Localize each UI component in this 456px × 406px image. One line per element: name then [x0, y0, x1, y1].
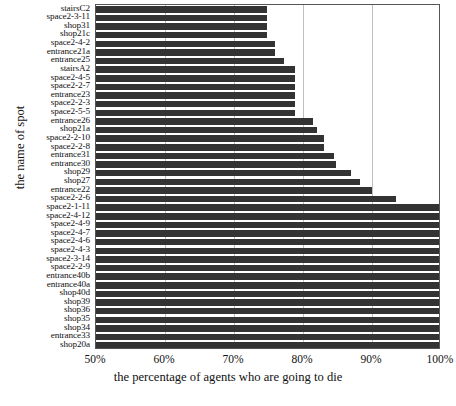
- bar: [96, 204, 440, 211]
- x-tick-label: 70%: [222, 352, 243, 366]
- bar: [96, 222, 440, 229]
- bar: [96, 273, 440, 280]
- bar-row: [96, 48, 440, 57]
- bar: [96, 213, 440, 220]
- bar-row: [96, 186, 440, 195]
- bar-row: [96, 14, 440, 23]
- bar-row: [96, 152, 440, 161]
- x-tick-label: 80%: [291, 352, 312, 366]
- bar: [96, 23, 267, 30]
- bar: [96, 161, 336, 168]
- bar-row: [96, 109, 440, 118]
- y-tick-label: shop20a: [60, 340, 90, 349]
- bar: [96, 6, 267, 13]
- x-axis-tick-labels: 50%60%70%80%90%100%: [0, 352, 456, 370]
- bar: [96, 32, 267, 39]
- bar-row: [96, 238, 440, 247]
- bar-row: [96, 74, 440, 83]
- bar: [96, 110, 295, 117]
- bar: [96, 84, 295, 91]
- bar-row: [96, 255, 440, 264]
- x-tick-label: 50%: [84, 352, 105, 366]
- bar: [96, 58, 284, 65]
- plot-area: [95, 4, 440, 349]
- bar-row: [96, 83, 440, 92]
- bar-row: [96, 316, 440, 325]
- bar: [96, 239, 440, 246]
- bar-row: [96, 298, 440, 307]
- bar-row: [96, 5, 440, 14]
- bar: [96, 101, 295, 108]
- bar: [96, 282, 440, 289]
- bar: [96, 75, 295, 82]
- bar: [96, 256, 440, 263]
- bar-row: [96, 195, 440, 204]
- bar: [96, 308, 440, 315]
- bar-row: [96, 333, 440, 342]
- bar: [96, 118, 313, 125]
- bar-row: [96, 178, 440, 187]
- bar: [96, 187, 372, 194]
- bar: [96, 49, 275, 56]
- bar-row: [96, 307, 440, 316]
- bar: [96, 248, 440, 255]
- bar-row: [96, 31, 440, 40]
- bar: [96, 41, 275, 48]
- bar-row: [96, 91, 440, 100]
- bar-row: [96, 324, 440, 333]
- bar-row: [96, 143, 440, 152]
- bar: [96, 317, 440, 324]
- bar: [96, 265, 440, 272]
- bar-row: [96, 100, 440, 109]
- bar: [96, 299, 440, 306]
- bar: [96, 325, 440, 332]
- bar-row: [96, 134, 440, 143]
- bar-row: [96, 203, 440, 212]
- bar-row: [96, 65, 440, 74]
- x-tick-label: 90%: [360, 352, 381, 366]
- bar: [96, 196, 396, 203]
- y-axis-title: the name of spot: [13, 68, 28, 228]
- bar-row: [96, 126, 440, 135]
- bar-series: [96, 5, 439, 348]
- bar: [96, 15, 267, 22]
- x-tick-label: 100%: [427, 352, 454, 366]
- bar-row: [96, 117, 440, 126]
- x-axis-title: the percentage of agents who are going t…: [0, 370, 456, 385]
- bar-row: [96, 221, 440, 230]
- x-tick-label: 60%: [153, 352, 174, 366]
- bar: [96, 230, 440, 237]
- bar-row: [96, 160, 440, 169]
- bar-row: [96, 40, 440, 49]
- bar-row: [96, 264, 440, 273]
- bar: [96, 179, 360, 186]
- bar: [96, 170, 351, 177]
- bar-row: [96, 22, 440, 31]
- bar-row: [96, 341, 440, 349]
- bar: [96, 127, 317, 134]
- bar-row: [96, 290, 440, 299]
- bar-row: [96, 169, 440, 178]
- bar-row: [96, 212, 440, 221]
- bar-row: [96, 57, 440, 66]
- bar-row: [96, 272, 440, 281]
- bar: [96, 291, 440, 298]
- bar: [96, 135, 324, 142]
- bar: [96, 153, 334, 160]
- bar: [96, 334, 440, 341]
- bar-row: [96, 229, 440, 238]
- bar-row: [96, 281, 440, 290]
- bar: [96, 342, 440, 349]
- bar-row: [96, 247, 440, 256]
- bar: [96, 66, 295, 73]
- bar: [96, 144, 324, 151]
- bar: [96, 92, 295, 99]
- chart-figure: stairsC2space2-3-11shop31shop21cspace2-4…: [0, 0, 456, 406]
